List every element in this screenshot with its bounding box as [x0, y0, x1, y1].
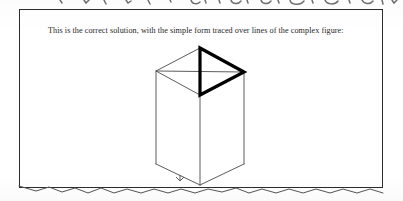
- top-face-rhombus: [156, 48, 244, 95]
- torn-paper-edge: [0, 175, 403, 201]
- content-panel: This is the correct solution, with the s…: [19, 9, 383, 188]
- figure-isometric-box: [20, 10, 384, 189]
- caption-text: This is the correct solution, with the s…: [48, 25, 346, 36]
- cut-off-text-fragments: [0, 0, 403, 9]
- scanned-page-fragment: This is the correct solution, with the s…: [0, 0, 403, 201]
- traced-triangle-highlight: [200, 48, 244, 95]
- figure-svg: [20, 10, 384, 189]
- box-thin-lines: [156, 48, 244, 185]
- rhombus-horizontal-diagonal: [156, 71, 244, 72]
